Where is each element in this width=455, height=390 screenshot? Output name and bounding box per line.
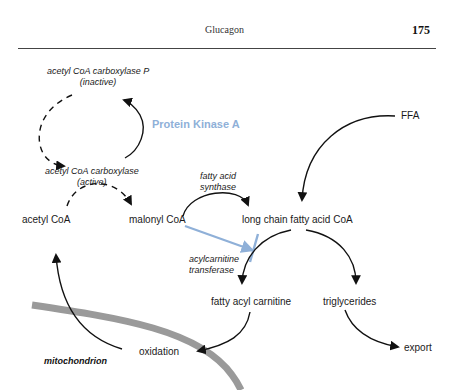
oxidation-arrow: [198, 312, 250, 351]
inhibition-arrow: [185, 226, 252, 250]
triglycerides-label: triglycerides: [323, 296, 376, 307]
acc-inactive-label: acetyl CoA carboxylase P (inactive): [47, 66, 149, 88]
ffa-arrow: [302, 116, 395, 200]
act-line2: transferase: [189, 265, 239, 276]
acc-inactive-line1: acetyl CoA carboxylase P: [47, 66, 149, 77]
oxidation-label: oxidation: [139, 346, 179, 357]
acetyl-coa-return-arrow: [56, 255, 122, 349]
act-line1: acylcarnitine: [189, 254, 239, 265]
mitochondrial-membrane: [32, 305, 241, 390]
triglyceride-arrow: [306, 230, 356, 283]
fatty-acyl-carnitine-label: fatty acyl carnitine: [211, 296, 291, 307]
acylcarnitine-transferase-label: acylcarnitine transferase: [189, 254, 239, 276]
dephosphorylation-arrow: [39, 95, 72, 166]
acc-active-line2: (active): [45, 177, 139, 188]
malonyl-coa-label: malonyl CoA: [129, 214, 186, 225]
ffa-label: FFA: [401, 110, 419, 121]
acc-inactive-line2: (inactive): [47, 77, 149, 88]
protein-kinase-a-label: Protein Kinase A: [152, 118, 240, 130]
acc-active-line1: acetyl CoA carboxylase: [45, 166, 139, 177]
export-arrow: [345, 310, 398, 347]
acetyl-coa-label: acetyl CoA: [22, 214, 70, 225]
phosphorylation-arrow: [124, 100, 143, 158]
fas-arrow: [183, 193, 248, 216]
book-page: Glucagon 175: [0, 0, 455, 390]
carnitine-arrow: [242, 230, 291, 283]
export-label: export: [404, 342, 432, 353]
pathway-diagram: [0, 0, 455, 390]
fas-line1: fatty acid: [200, 171, 236, 182]
fas-line2: synthase: [200, 182, 236, 193]
mitochondrion-label: mitochondrion: [44, 356, 107, 366]
fatty-acid-synthase-label: fatty acid synthase: [200, 171, 236, 193]
long-chain-fatty-acid-coa-label: long chain fatty acid CoA: [242, 214, 353, 225]
acc-active-label: acetyl CoA carboxylase (active): [45, 166, 139, 188]
